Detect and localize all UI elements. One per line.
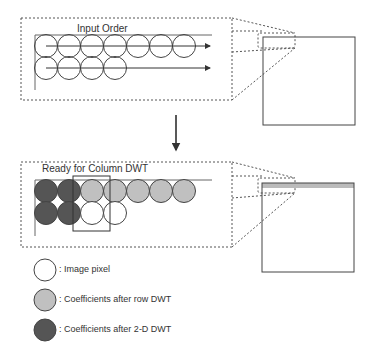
legend-image-pixel: : Image pixel [59,264,110,274]
bottom-panel [21,162,354,272]
legend-row-dwt: : Coefficients after row DWT [59,294,171,304]
ready-label: Ready for Column DWT [42,163,148,174]
input-order-label: Input Order [77,23,128,34]
dwt-diagram: Input Order Ready for Column DWT : Image… [0,0,374,360]
diagram-graphics [0,0,374,360]
legend [34,259,56,341]
legend-2d-dwt: : Coefficients after 2-D DWT [59,324,171,334]
top-panel [21,18,355,125]
